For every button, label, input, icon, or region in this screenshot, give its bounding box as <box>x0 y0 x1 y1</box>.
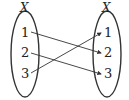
right-element-3: 3 <box>104 66 112 81</box>
arrow-1-to-2 <box>31 32 101 53</box>
right-element-1: 1 <box>104 25 112 40</box>
left-element-1: 1 <box>21 25 29 40</box>
left-element-3: 3 <box>21 66 29 81</box>
arrow-3-to-1 <box>31 33 101 73</box>
right-element-2: 2 <box>104 45 112 60</box>
left-set-label: X <box>19 1 29 15</box>
left-element-2: 2 <box>21 45 29 60</box>
arrow-2-to-3 <box>31 53 101 74</box>
mapping-diagram: X 1 2 3 X 1 2 3 <box>0 0 129 100</box>
right-set-label: X <box>101 1 111 15</box>
